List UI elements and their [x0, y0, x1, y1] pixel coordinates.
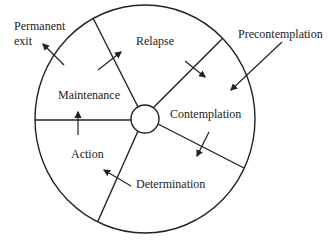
arrow-permanent-exit [43, 44, 64, 65]
stage-label-determination: Determination [136, 177, 205, 191]
stage-label-relapse: Relapse [136, 34, 174, 48]
spoke-determination-action [98, 131, 138, 221]
arrow-contemplation-to-determination [197, 132, 209, 156]
stages-of-change-diagram: Relapse Contemplation Determination Acti… [0, 0, 336, 243]
spoke-relapse-contemplation [153, 39, 222, 108]
stage-label-action: Action [71, 147, 104, 161]
label-permanent-exit-line2: exit [14, 34, 33, 48]
label-permanent-exit-line1: Permanent [14, 19, 66, 33]
label-precontemplation: Precontemplation [238, 27, 323, 41]
stage-label-contemplation: Contemplation [170, 107, 241, 121]
center-hub [131, 105, 159, 133]
arrow-determination-to-action [104, 170, 131, 186]
arrow-precontemplation-entry [231, 42, 282, 90]
arrow-relapse-to-contemplation [185, 61, 205, 77]
spoke-contemplation-determination [158, 124, 244, 168]
stage-label-maintenance: Maintenance [58, 88, 120, 102]
